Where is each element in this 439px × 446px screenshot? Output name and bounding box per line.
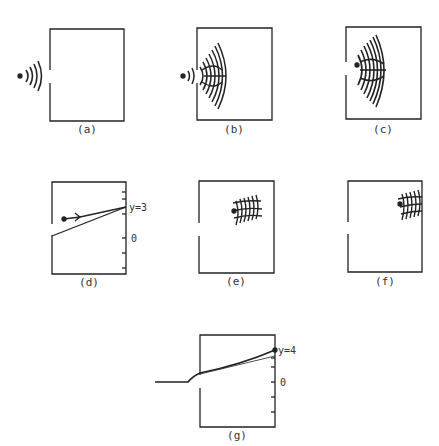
box-a — [50, 29, 124, 121]
trajectory-line-thin — [200, 356, 275, 374]
source-dot-icon — [18, 74, 22, 78]
box-g — [200, 335, 275, 427]
box-b — [197, 28, 272, 120]
wave-arcs-icon — [26, 61, 42, 91]
panel-label-c: (c) — [373, 123, 393, 136]
panel-a: (a) — [18, 29, 124, 136]
axis-label-zero: 0 — [280, 377, 286, 388]
particle-dot-icon — [398, 202, 402, 206]
wave-packet-icon — [233, 195, 262, 225]
panel-label-d: (d) — [79, 276, 99, 289]
panel-e: (e) — [199, 181, 274, 288]
panel-b: (b) — [181, 28, 272, 136]
axis-label-zero: 0 — [131, 233, 137, 244]
trajectory-curve — [155, 350, 275, 382]
panel-label-f: (f) — [375, 275, 395, 288]
axis-label-y4: y=4 — [278, 345, 296, 356]
wave-packet-icon — [358, 35, 386, 107]
panel-label-g: (g) — [227, 429, 247, 442]
axis-label-y3: y=3 — [129, 202, 147, 213]
panel-g: y=4 0 (g) — [155, 335, 296, 442]
endpoint-dot-icon — [273, 348, 277, 352]
trajectory-line-lower — [52, 207, 126, 236]
particle-dot-icon — [355, 63, 359, 67]
panel-label-b: (b) — [224, 123, 244, 136]
panel-label-a: (a) — [77, 123, 97, 136]
figure-canvas: (a) (b) — [0, 0, 439, 446]
box-d — [52, 182, 126, 274]
box-e — [199, 181, 274, 273]
source-dot-icon — [181, 74, 185, 78]
panel-c: (c) — [346, 27, 421, 136]
panel-label-e: (e) — [226, 275, 246, 288]
panel-f: (f) — [348, 181, 422, 288]
incident-wave-icon — [188, 68, 194, 84]
diffracted-wave-icon — [200, 43, 226, 109]
panel-d: y=3 0 (d) — [52, 182, 147, 289]
